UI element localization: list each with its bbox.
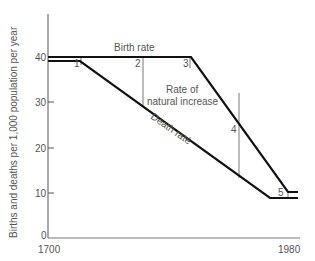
death-rate-label: Death rate bbox=[149, 111, 194, 147]
y-tick-20: 20 bbox=[35, 143, 47, 154]
rate-label-line1: Rate of bbox=[166, 84, 198, 95]
marker-1: 1 bbox=[74, 58, 80, 69]
y-tick-30: 30 bbox=[35, 97, 47, 108]
y-axis-label: Births and deaths per 1,000 population p… bbox=[8, 26, 19, 238]
marker-5: 5 bbox=[278, 187, 284, 198]
y-tick-0: 0 bbox=[41, 230, 47, 241]
y-ticks bbox=[48, 57, 54, 193]
stage-markers bbox=[81, 57, 288, 198]
marker-3: 3 bbox=[183, 58, 189, 69]
x-tick-1980: 1980 bbox=[278, 244, 301, 255]
marker-2: 2 bbox=[135, 58, 141, 69]
y-tick-40: 40 bbox=[35, 52, 47, 63]
marker-4: 4 bbox=[231, 124, 237, 135]
y-tick-10: 10 bbox=[35, 188, 47, 199]
rate-label-line2: natural increase bbox=[147, 96, 219, 107]
birth-rate-label: Birth rate bbox=[114, 42, 155, 53]
x-tick-1700: 1700 bbox=[38, 244, 61, 255]
demographic-transition-chart: 40 30 20 10 0 1700 1980 Births and death… bbox=[0, 0, 315, 261]
